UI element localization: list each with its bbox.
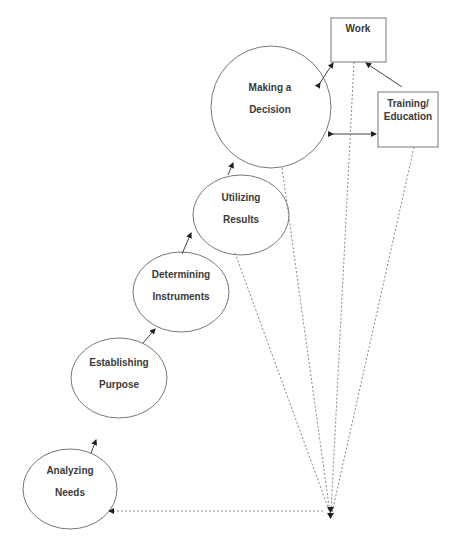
label-work: Work [346,22,371,35]
edge-decision-work [320,63,333,83]
dashed-utilizing-to-convergence [235,253,330,513]
label-training-education: Training/ Education [384,97,432,123]
edge-establishing-to-determining [143,329,155,343]
edge-determining-to-utilizing [182,233,191,254]
label-determining-instruments: Determining Instruments [152,264,210,308]
diagram-shapes [0,0,462,537]
dashed-training-to-convergence [332,147,414,513]
edge-utilizing-to-decision [228,163,233,175]
dashed-work-to-convergence [331,62,354,513]
edge-training-to-work [366,63,402,87]
label-making-decision: Making a Decision [249,77,292,121]
label-establishing-purpose: Establishing Purpose [89,352,148,396]
label-analyzing-needs: Analyzing Needs [46,460,93,504]
edge-analyzing-to-establishing [91,440,96,453]
label-utilizing-results: Utilizing Results [222,187,261,231]
diagram-canvas: Analyzing Needs Establishing Purpose Det… [0,0,462,537]
dashed-decision-to-convergence [282,168,330,513]
